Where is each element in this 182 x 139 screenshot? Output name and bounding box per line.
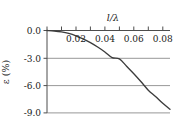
line-chart: 0.02 0.04 0.06 0.08 0.0 -3.0 -6.0 -9.0 l… — [0, 0, 182, 139]
y-tick-label-0: 0.0 — [27, 26, 42, 36]
y-tick-label-1: -3.0 — [24, 54, 42, 64]
x-tick-label-2: 0.06 — [124, 34, 144, 44]
x-tick-label-3: 0.08 — [153, 34, 173, 44]
x-tick-label-1: 0.04 — [95, 34, 115, 44]
y-tick-labels: 0.0 -3.0 -6.0 -9.0 — [24, 26, 42, 118]
x-axis-title: l/λ — [107, 12, 119, 23]
y-tick-label-2: -6.0 — [24, 81, 42, 91]
y-axis-title: ε (%) — [0, 60, 11, 84]
chart-figure: 0.02 0.04 0.06 0.08 0.0 -3.0 -6.0 -9.0 l… — [0, 0, 182, 139]
x-tick-label-0: 0.02 — [66, 34, 86, 44]
y-tick-label-3: -9.0 — [24, 108, 42, 118]
y-axis-ticks — [44, 31, 48, 113]
